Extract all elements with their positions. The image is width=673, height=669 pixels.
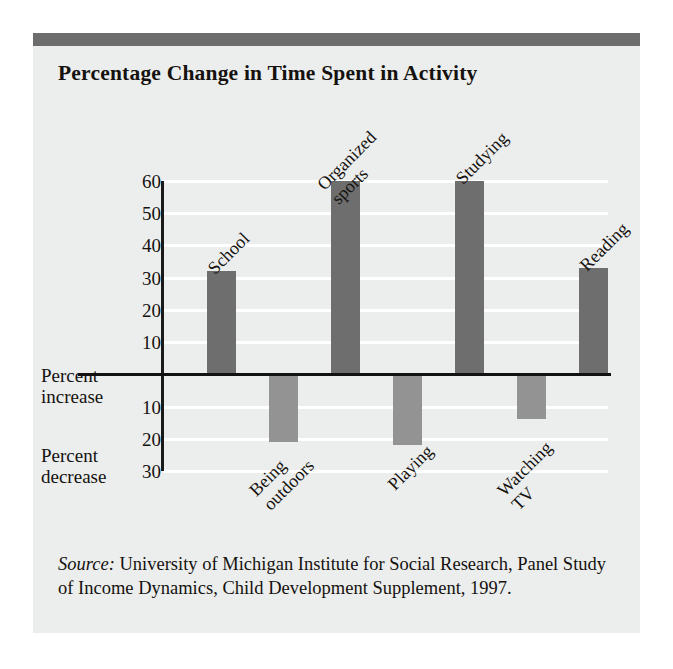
y-axis-tick-label: 10 [119, 398, 161, 417]
source-label: Source: [58, 554, 115, 574]
header-rule [33, 33, 640, 46]
gridline [163, 180, 608, 183]
category-label-organized-sports: Organizedsports [314, 128, 395, 209]
percent-decrease-label: Percentdecrease [41, 445, 106, 488]
bar-playing [393, 374, 422, 445]
gridline [163, 212, 608, 215]
category-label-playing: Playing [384, 442, 436, 494]
percent-increase-label: Percentincrease [41, 365, 103, 408]
bar-watching-tv [517, 374, 546, 419]
bar-being-outdoors [269, 374, 298, 442]
y-axis-tick-label: 30 [119, 269, 161, 288]
y-axis-tick-label: 30 [119, 462, 161, 481]
plot-area: 605040302010102030 SchoolBeingoutdoorsOr… [163, 181, 608, 471]
y-axis-tick-label: 40 [119, 236, 161, 255]
bar-studying [455, 181, 484, 374]
chart-title: Percentage Change in Time Spent in Activ… [58, 61, 477, 86]
source-note: Source: University of Michigan Institute… [58, 553, 618, 600]
y-axis-tick-label: 20 [119, 430, 161, 449]
chart-figure: Percentage Change in Time Spent in Activ… [33, 33, 640, 633]
bar-school [207, 271, 236, 374]
category-label-watching-tv: WatchingTV [494, 438, 570, 514]
y-axis-tick-label: 50 [119, 204, 161, 223]
y-axis-tick-label: 10 [119, 333, 161, 352]
y-axis-tick-label: 20 [119, 301, 161, 320]
bar-organized-sports [331, 181, 360, 374]
y-axis-tick-label: 60 [119, 172, 161, 191]
category-label-being-outdoors: Beingoutdoors [246, 442, 319, 515]
source-text: University of Michigan Institute for Soc… [58, 554, 606, 598]
bar-reading [579, 268, 608, 374]
y-axis-line [161, 181, 164, 471]
zero-baseline [78, 373, 611, 376]
